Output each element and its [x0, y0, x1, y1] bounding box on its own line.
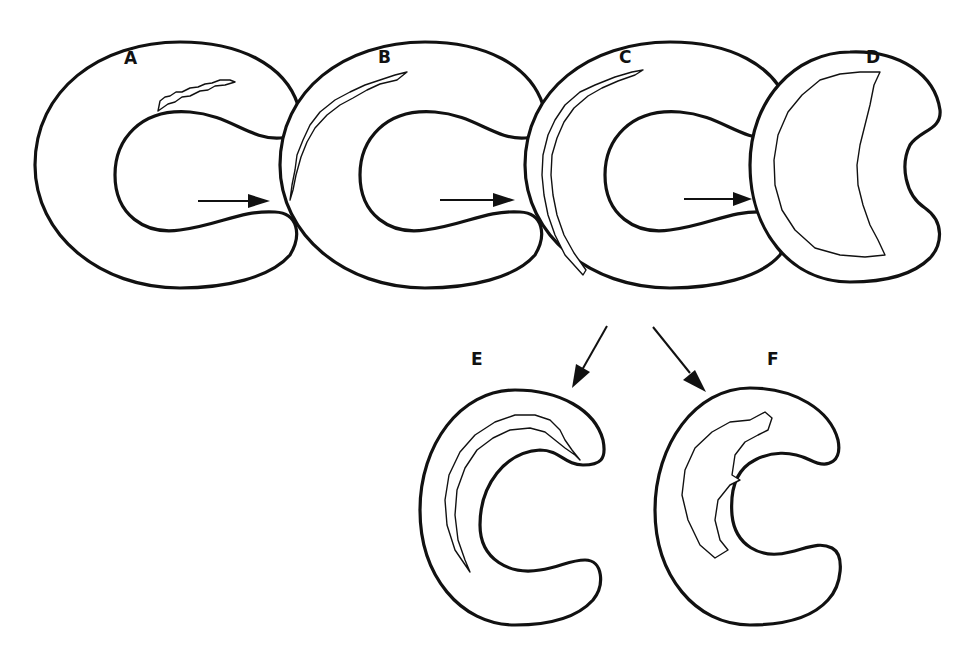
arrow-c-to-d: [684, 192, 752, 206]
label-b: B: [378, 47, 391, 67]
stage-b: [280, 42, 546, 288]
stage-f: [655, 388, 840, 625]
label-c: C: [619, 47, 631, 67]
stage-e: [420, 390, 604, 625]
label-f: F: [767, 349, 779, 369]
label-e: E: [471, 349, 483, 369]
label-a: A: [124, 48, 137, 68]
arrow-a-to-b: [198, 194, 270, 208]
arrow-c-to-f: [653, 327, 706, 392]
diagram-canvas: [0, 0, 977, 649]
stage-a: [35, 42, 301, 288]
label-d: D: [866, 47, 880, 67]
stage-d: [750, 52, 940, 282]
arrow-b-to-c: [440, 193, 515, 207]
arrow-c-to-e: [572, 326, 607, 388]
